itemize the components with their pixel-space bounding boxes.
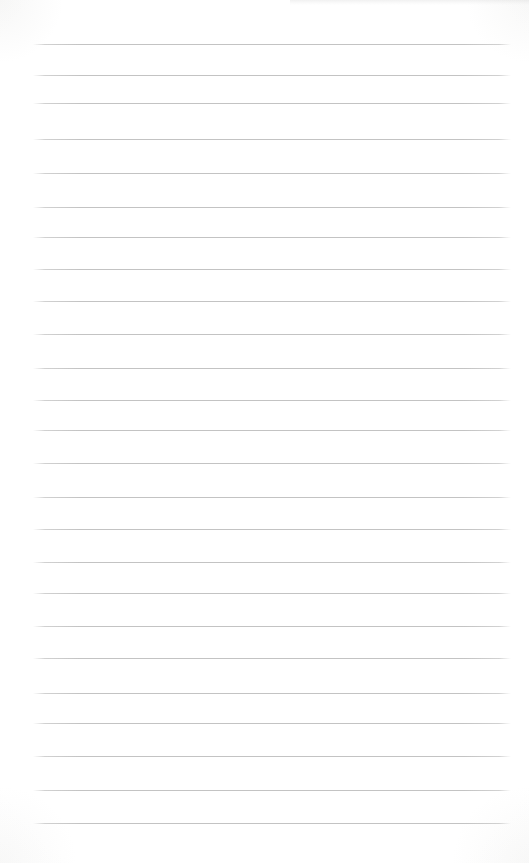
ruled-line [33, 658, 511, 659]
ruled-line [33, 693, 511, 694]
ruled-line [33, 529, 511, 530]
notebook-page [0, 0, 529, 863]
ruled-line [33, 463, 511, 464]
ruled-line [33, 334, 511, 335]
ruled-line [33, 75, 511, 76]
ruled-line [33, 237, 511, 238]
ruled-line [33, 626, 511, 627]
ruled-line [33, 207, 511, 208]
ruled-line [33, 368, 511, 369]
ruled-line [33, 823, 511, 824]
ruled-line [33, 497, 511, 498]
ruled-line [33, 173, 511, 174]
ruled-line [33, 790, 511, 791]
ruled-line [33, 44, 511, 45]
ruled-lines-container [0, 0, 529, 863]
ruled-line [33, 103, 511, 104]
ruled-line [33, 301, 511, 302]
ruled-line [33, 562, 511, 563]
ruled-line [33, 593, 511, 594]
ruled-line [33, 756, 511, 757]
ruled-line [33, 400, 511, 401]
ruled-line [33, 269, 511, 270]
ruled-line [33, 430, 511, 431]
ruled-line [33, 139, 511, 140]
ruled-line [33, 723, 511, 724]
